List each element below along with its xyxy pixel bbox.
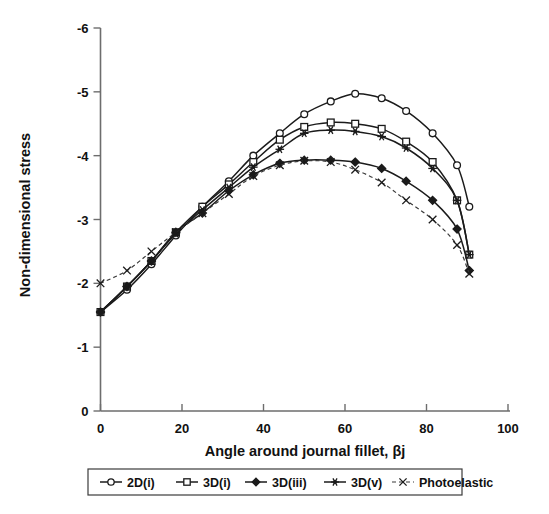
data-point-cross (123, 267, 131, 275)
legend-label: 3D(i) (203, 476, 231, 490)
legend-label: 3D(v) (351, 476, 382, 490)
data-point-star (351, 128, 360, 135)
data-point-open-circle (466, 203, 473, 210)
y-tick-label: -1 (77, 340, 89, 355)
legend-label: 3D(iii) (272, 476, 307, 490)
y-axis-title: Non-dimensional stress (17, 133, 33, 297)
x-axis-title: Angle around journal fillet, βj (205, 443, 406, 459)
data-point-cross (453, 241, 461, 249)
x-axis: 020406080100 Angle around journal fillet… (97, 404, 519, 459)
data-point-cross (402, 197, 410, 205)
plot-area (96, 90, 473, 316)
x-tick-label: 40 (256, 421, 270, 436)
data-point-open-square (276, 136, 283, 143)
data-point-open-square (327, 119, 334, 126)
data-point-cross (429, 216, 437, 224)
series-line (101, 130, 470, 312)
y-tick-label: 0 (81, 404, 88, 419)
legend: 2D(i)3D(i)3D(iii)3D(v)Photoelastic (88, 469, 493, 495)
data-point-open-square (378, 125, 385, 132)
data-point-filled-diamond (351, 158, 359, 166)
stress-vs-angle-chart: 0-1-2-3-4-5-6 Non-dimensional stress 020… (0, 0, 549, 514)
x-tick-label: 80 (419, 421, 433, 436)
legend-label: 2D(i) (127, 476, 155, 490)
data-point-star (326, 126, 335, 133)
series-line (101, 122, 470, 312)
data-point-open-square (403, 138, 410, 145)
data-point-open-circle (352, 90, 359, 97)
x-axis-ticks (101, 404, 509, 411)
data-point-cross (378, 179, 386, 187)
data-point-open-square (184, 479, 190, 485)
y-axis-tick-labels: 0-1-2-3-4-5-6 (77, 21, 89, 419)
data-point-filled-diamond (378, 164, 386, 172)
data-point-open-circle (378, 95, 385, 102)
series-line (101, 161, 470, 284)
series-3dv (96, 126, 473, 315)
series-line (101, 94, 470, 312)
data-point-open-circle (301, 111, 308, 118)
figure: 0-1-2-3-4-5-6 Non-dimensional stress 020… (0, 0, 549, 514)
data-point-open-square (429, 159, 436, 166)
data-point-open-circle (403, 108, 410, 115)
x-tick-label: 60 (338, 421, 352, 436)
data-point-cross (148, 248, 156, 256)
legend-label: Photoelastic (419, 476, 493, 490)
series-3diii (97, 156, 474, 316)
x-tick-label: 20 (175, 421, 189, 436)
y-tick-label: -4 (77, 149, 89, 164)
data-point-open-square (250, 159, 257, 166)
y-axis: 0-1-2-3-4-5-6 Non-dimensional stress (17, 21, 101, 419)
data-point-star (377, 133, 386, 140)
series-3di (97, 119, 473, 315)
data-point-open-circle (429, 130, 436, 137)
y-tick-label: -3 (77, 213, 89, 228)
data-point-filled-diamond (453, 225, 461, 233)
series-line (101, 160, 470, 312)
y-tick-label: -5 (77, 85, 89, 100)
x-tick-label: 100 (497, 421, 519, 436)
y-axis-ticks (94, 28, 101, 411)
x-tick-label: 0 (97, 421, 104, 436)
data-point-open-circle (454, 162, 461, 169)
data-point-filled-diamond (402, 177, 410, 185)
data-point-open-circle (108, 479, 114, 485)
data-point-open-circle (327, 98, 334, 105)
series-2di (97, 90, 473, 315)
y-tick-label: -6 (77, 21, 89, 36)
data-point-open-square (352, 120, 359, 127)
y-tick-label: -2 (77, 276, 89, 291)
data-point-cross (351, 166, 359, 174)
data-point-open-square (301, 124, 308, 131)
x-axis-tick-labels: 020406080100 (97, 421, 519, 436)
